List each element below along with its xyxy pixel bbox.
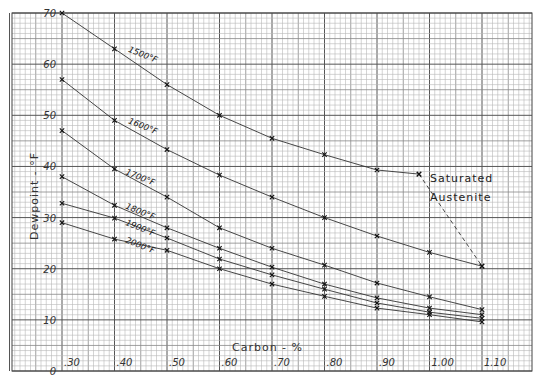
svg-text:.50: .50: [169, 357, 185, 368]
x-axis-title: Carbon - %: [232, 341, 303, 354]
svg-text:1500°F: 1500°F: [127, 44, 159, 65]
annotation-austenite: Austenite: [430, 191, 491, 204]
svg-text:50: 50: [43, 110, 56, 121]
svg-text:1.10: 1.10: [484, 357, 506, 368]
svg-text:.30: .30: [64, 357, 80, 368]
svg-text:10: 10: [43, 315, 56, 326]
svg-text:.70: .70: [274, 357, 290, 368]
y-axis-title: Dewpoint - °F: [28, 152, 41, 240]
dewpoint-carbon-chart: 010203040506070.30.40.50.60.70.80.901.00…: [0, 0, 544, 382]
svg-text:1.00: 1.00: [432, 357, 454, 368]
svg-text:1600°F: 1600°F: [127, 116, 159, 137]
svg-text:.60: .60: [222, 357, 238, 368]
svg-text:30: 30: [43, 213, 56, 224]
svg-text:40: 40: [43, 161, 56, 172]
annotation-saturated: Saturated: [430, 172, 493, 185]
svg-text:.90: .90: [379, 357, 395, 368]
svg-text:70: 70: [43, 8, 56, 19]
svg-text:.40: .40: [117, 357, 133, 368]
svg-text:0: 0: [50, 366, 56, 377]
svg-text:.80: .80: [327, 357, 343, 368]
svg-text:20: 20: [43, 264, 56, 275]
svg-text:60: 60: [43, 59, 56, 70]
